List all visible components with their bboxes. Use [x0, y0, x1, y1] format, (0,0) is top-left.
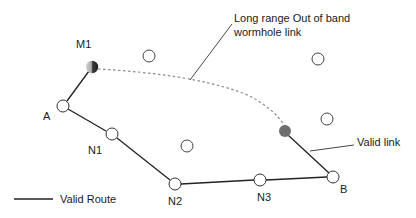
wormhole-annotation-line2: wormhole link	[233, 26, 302, 38]
nodes	[57, 50, 339, 190]
edge-n1-n2	[117, 138, 170, 180]
node-m1	[86, 61, 98, 73]
edge-n2-n3	[181, 180, 254, 184]
node-n2	[169, 178, 181, 190]
label-a: A	[43, 110, 51, 122]
edge-n3-b	[266, 177, 327, 180]
label-b: B	[340, 183, 347, 195]
legend: Valid Route	[14, 193, 116, 205]
node-unlabeled-1	[143, 50, 155, 62]
valid-link-annotation: Valid link	[357, 136, 401, 148]
label-n3: N3	[257, 191, 271, 203]
valid-link-pointer	[310, 145, 354, 151]
node-a	[57, 100, 69, 112]
legend-valid-route: Valid Route	[60, 193, 116, 205]
wormhole-attack-diagram: M1 A N1 N2 N3 B Long range Out of band w…	[0, 0, 416, 218]
edge-m2-b	[288, 135, 329, 173]
node-n1	[106, 128, 118, 140]
label-n1: N1	[88, 144, 102, 156]
wormhole-annotation-line1: Long range Out of band	[234, 12, 350, 24]
wormhole-pointer	[190, 24, 232, 80]
label-m1: M1	[76, 38, 91, 50]
node-unlabeled-3	[321, 113, 333, 125]
edge-a-n1	[68, 109, 106, 131]
node-unlabeled-4	[181, 140, 193, 152]
node-unlabeled-2	[312, 53, 324, 65]
node-b	[327, 171, 339, 183]
label-n2: N2	[168, 195, 182, 207]
node-m2	[279, 125, 291, 137]
node-n3	[254, 174, 266, 186]
edge-m1-a	[67, 71, 89, 101]
